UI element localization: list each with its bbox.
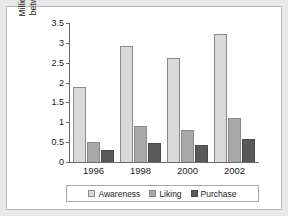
x-axis-tick-label: 1998 bbox=[130, 166, 151, 176]
bar-group bbox=[214, 23, 255, 162]
x-axis-line bbox=[69, 162, 259, 163]
y-axis-tick-mark bbox=[66, 142, 70, 143]
y-axis-tick-mark bbox=[66, 122, 70, 123]
y-axis-tick-mark bbox=[66, 63, 70, 64]
y-axis-title-line-1: Million women aged bbox=[17, 0, 28, 17]
x-axis-tick-label: 2000 bbox=[177, 166, 198, 176]
bar-group bbox=[120, 23, 161, 162]
y-axis-tick-label: 0 bbox=[59, 158, 64, 167]
bar-awareness bbox=[167, 58, 180, 162]
bar-purchase bbox=[148, 143, 161, 162]
bar-liking bbox=[87, 142, 100, 162]
bar-purchase bbox=[195, 145, 208, 162]
y-axis-tick-mark bbox=[66, 83, 70, 84]
y-axis-tick-mark bbox=[66, 43, 70, 44]
y-axis-title-line-2: between 14 and 64 bbox=[28, 0, 39, 15]
bar-group bbox=[73, 23, 114, 162]
chart-panel: Million women aged between 14 and 64 00.… bbox=[6, 6, 282, 210]
y-axis-tick-label: 2.5 bbox=[51, 58, 64, 67]
chart-legend: AwarenessLikingPurchase bbox=[66, 185, 259, 202]
bar-group bbox=[167, 23, 208, 162]
plot-area: 00.511.522.533.5 bbox=[70, 23, 258, 162]
x-axis-tick-label: 1996 bbox=[83, 166, 104, 176]
bar-awareness bbox=[214, 34, 227, 162]
y-axis-tick-label: 1.5 bbox=[51, 98, 64, 107]
bar-liking bbox=[134, 126, 147, 162]
y-axis-tick-mark bbox=[66, 23, 70, 24]
legend-item-liking[interactable]: Liking bbox=[149, 189, 181, 199]
bar-purchase bbox=[242, 139, 255, 162]
y-axis-tick-mark bbox=[66, 162, 70, 163]
bar-awareness bbox=[120, 46, 133, 162]
y-axis-tick-label: 3 bbox=[59, 38, 64, 47]
legend-item-awareness[interactable]: Awareness bbox=[88, 189, 140, 199]
legend-swatch-icon bbox=[149, 190, 156, 197]
legend-item-label: Liking bbox=[159, 189, 181, 199]
bar-liking bbox=[228, 118, 241, 162]
legend-item-label: Purchase bbox=[201, 189, 237, 199]
legend-swatch-icon bbox=[88, 190, 95, 197]
chart-page: Million women aged between 14 and 64 00.… bbox=[0, 0, 288, 216]
y-axis-tick-label: 0.5 bbox=[51, 138, 64, 147]
y-axis-tick-label: 3.5 bbox=[51, 19, 64, 28]
x-axis-tick-label: 2002 bbox=[224, 166, 245, 176]
bar-awareness bbox=[73, 87, 86, 162]
legend-item-purchase[interactable]: Purchase bbox=[191, 189, 237, 199]
y-axis-title: Million women aged between 14 and 64 bbox=[15, 0, 41, 49]
legend-item-label: Awareness bbox=[98, 189, 140, 199]
y-axis-tick-label: 1 bbox=[59, 118, 64, 127]
legend-swatch-icon bbox=[191, 190, 198, 197]
y-axis-tick-mark bbox=[66, 102, 70, 103]
bar-liking bbox=[181, 130, 194, 162]
y-axis-tick-label: 2 bbox=[59, 78, 64, 87]
bar-purchase bbox=[101, 150, 114, 162]
